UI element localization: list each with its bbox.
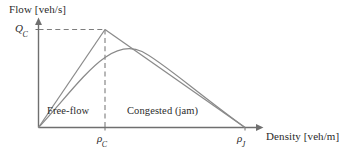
qc-subscript: C (22, 30, 27, 39)
rhoc-subscript: C (102, 140, 107, 149)
rhoj-subscript: J (242, 140, 246, 149)
qc-tick-label: QC (15, 23, 28, 37)
y-axis-title: Flow [veh/s] (9, 4, 66, 15)
x-axis-title: Density [veh/m] (266, 131, 339, 142)
rhoc-tick-label: ρC (97, 133, 108, 147)
congested-region-label: Congested (jam) (127, 106, 198, 117)
rhoj-tick-label: ρJ (237, 133, 246, 147)
free-flow-region-label: Free-flow (47, 106, 89, 117)
traffic-fundamental-diagram: Flow [veh/s] Density [veh/m] QC ρC ρJ Fr… (0, 0, 353, 157)
